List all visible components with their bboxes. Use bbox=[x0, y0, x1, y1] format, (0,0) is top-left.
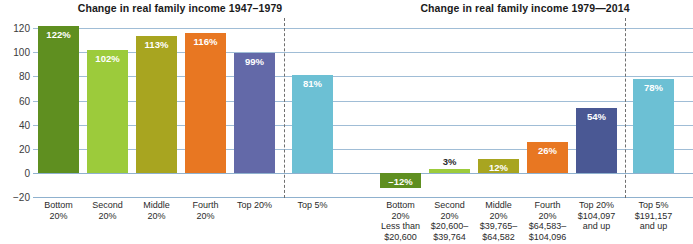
bar: 102% bbox=[87, 50, 128, 173]
chart-figure: Change in real family income 1947–1979 C… bbox=[0, 0, 693, 244]
category-label-line: and up bbox=[623, 221, 684, 232]
bar: 113% bbox=[136, 36, 177, 173]
y-tick-label-0: 0 bbox=[0, 168, 30, 179]
bar: 54% bbox=[576, 108, 617, 173]
bar-value-label: 116% bbox=[185, 36, 226, 47]
bar-value-label: 102% bbox=[87, 53, 128, 64]
gridline--20 bbox=[33, 197, 693, 198]
bar: 116% bbox=[185, 33, 226, 173]
bar-value-label: 26% bbox=[527, 145, 568, 156]
category-label-line: Top 5% bbox=[623, 200, 684, 211]
bar-value-label: 99% bbox=[234, 56, 275, 67]
gridline-60 bbox=[33, 101, 693, 102]
y-tick-label-20: 20 bbox=[0, 143, 30, 154]
bar-value-label: 78% bbox=[633, 82, 674, 93]
bar: 122% bbox=[38, 26, 79, 173]
bar: 99% bbox=[234, 53, 275, 173]
category-label-line: $191,157 bbox=[623, 211, 684, 222]
category-label: Top 20% bbox=[224, 200, 285, 211]
bar-value-label: 113% bbox=[136, 39, 177, 50]
category-label-line: $104,097 bbox=[566, 211, 627, 222]
category-label-line: and up bbox=[566, 221, 627, 232]
chart-title-right: Change in real family income 1979—2014 bbox=[400, 2, 650, 14]
panel-divider-2 bbox=[625, 18, 626, 198]
bar-value-label: 54% bbox=[576, 111, 617, 122]
bar-value-label: 122% bbox=[38, 29, 79, 40]
category-label-line: Top 5% bbox=[282, 200, 343, 211]
gridline-80 bbox=[33, 76, 693, 77]
category-label-line: Top 20% bbox=[224, 200, 285, 211]
y-tick-label-80: 80 bbox=[0, 71, 30, 82]
bar-value-label: 81% bbox=[292, 78, 333, 89]
panel-divider-1 bbox=[284, 18, 285, 198]
bar: 12% bbox=[478, 159, 519, 174]
category-label-line: Top 20% bbox=[566, 200, 627, 211]
y-tick-label--20: −20 bbox=[0, 192, 30, 203]
y-tick-label-60: 60 bbox=[0, 95, 30, 106]
category-label: Top 20%$104,097and up bbox=[566, 200, 627, 232]
category-label-line: $104,096 bbox=[517, 232, 578, 243]
plot-area: 120100806040200−20 122%102%113%116%99%81… bbox=[0, 18, 693, 198]
bar-value-label: –12% bbox=[380, 176, 421, 187]
y-tick-label-40: 40 bbox=[0, 119, 30, 130]
gridline-120 bbox=[33, 28, 693, 29]
bar-value-label: 3% bbox=[429, 156, 470, 167]
category-label: Top 5% bbox=[282, 200, 343, 211]
bar: 3% bbox=[429, 169, 470, 173]
y-tick-label-120: 120 bbox=[0, 23, 30, 34]
bar: –12% bbox=[380, 173, 421, 188]
category-label: Top 5%$191,157and up bbox=[623, 200, 684, 232]
gridline-100 bbox=[33, 52, 693, 53]
category-label-line: 20% bbox=[175, 211, 236, 222]
gridline-0 bbox=[33, 173, 693, 174]
chart-title-left: Change in real family income 1947–1979 bbox=[60, 2, 300, 14]
y-tick-label-100: 100 bbox=[0, 47, 30, 58]
bar: 78% bbox=[633, 79, 674, 173]
bar: 26% bbox=[527, 142, 568, 173]
bar: 81% bbox=[292, 75, 333, 173]
bar-value-label: 12% bbox=[478, 162, 519, 173]
